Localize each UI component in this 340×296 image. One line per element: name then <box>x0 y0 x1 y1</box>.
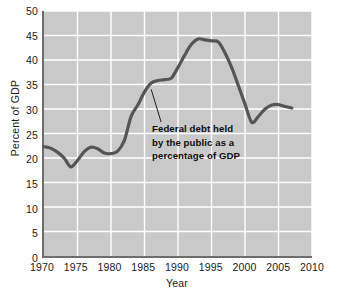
y-tick-label: 45 <box>2 31 38 41</box>
x-axis-title: Year <box>42 277 312 289</box>
y-tick-label: 15 <box>2 179 38 189</box>
chart-figure: 05101520253035404550 1970197519801985199… <box>0 0 340 296</box>
y-axis-title: Percent of GDP <box>9 58 21 178</box>
y-tick-label: 10 <box>2 204 38 214</box>
y-tick-label: 5 <box>2 228 38 238</box>
y-tick-label: 50 <box>2 6 38 16</box>
x-axis-tick-labels: 197019751980198519901995200020052010 <box>42 261 312 277</box>
annotation-line-3: percentage of GDP <box>152 149 292 163</box>
annotation-line-2: by the public as a <box>152 136 292 150</box>
series-annotation-label: Federal debt held by the public as a per… <box>152 122 292 163</box>
x-tick-label: 2010 <box>289 261 335 273</box>
annotation-line-1: Federal debt held <box>152 122 292 136</box>
